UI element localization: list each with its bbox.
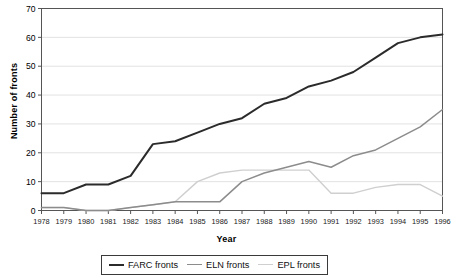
x-tick-label: 1979 <box>56 217 72 226</box>
x-tick-label: 1984 <box>167 217 183 226</box>
series-line <box>42 170 443 210</box>
series-line <box>42 110 443 211</box>
x-tick-label: 1993 <box>367 217 383 226</box>
legend-swatch-eln <box>187 264 202 265</box>
x-tick-label: 1987 <box>234 217 250 226</box>
y-tick-label: 50 <box>26 61 36 71</box>
y-axis-ticks: 010203040506070 <box>26 4 42 216</box>
y-tick-label: 40 <box>26 90 36 100</box>
legend-swatch-farc <box>109 264 124 266</box>
x-tick-label: 1981 <box>100 217 116 226</box>
x-tick-label: 1990 <box>301 217 317 226</box>
legend-label-farc: FARC fronts <box>128 260 178 270</box>
x-tick-label: 1991 <box>323 217 339 226</box>
legend-item-epl: EPL fronts <box>258 260 320 270</box>
x-tick-label: 1983 <box>145 217 161 226</box>
legend-item-eln: ELN fronts <box>187 260 249 270</box>
series-line <box>42 34 443 193</box>
x-axis-ticks: 1978197919801981198219831984198519861987… <box>33 211 450 226</box>
legend-item-farc: FARC fronts <box>109 260 178 270</box>
x-tick-label: 1986 <box>211 217 227 226</box>
x-tick-label: 1985 <box>189 217 205 226</box>
legend-swatch-epl <box>258 264 273 265</box>
legend-label-epl: EPL fronts <box>277 260 320 270</box>
x-tick-label: 1995 <box>412 217 428 226</box>
x-tick-label: 1980 <box>78 217 94 226</box>
x-tick-label: 1996 <box>434 217 450 226</box>
x-tick-label: 1989 <box>278 217 294 226</box>
gridlines <box>42 37 443 181</box>
x-tick-label: 1978 <box>33 217 49 226</box>
y-tick-label: 30 <box>26 119 36 129</box>
x-tick-label: 1988 <box>256 217 272 226</box>
data-series-group <box>42 34 443 210</box>
y-tick-label: 70 <box>26 4 36 14</box>
y-tick-label: 10 <box>26 177 36 187</box>
y-tick-label: 60 <box>26 33 36 43</box>
chart-legend: FARC fronts ELN fronts EPL fronts <box>101 255 328 275</box>
x-axis-title: Year <box>0 234 453 244</box>
x-tick-label: 1992 <box>345 217 361 226</box>
plot-frame <box>42 9 443 211</box>
chart-container: Number of fronts 010203040506070 1978197… <box>0 0 453 276</box>
legend-label-eln: ELN fronts <box>206 260 249 270</box>
y-tick-label: 0 <box>31 206 36 216</box>
y-tick-label: 20 <box>26 148 36 158</box>
x-tick-label: 1982 <box>122 217 138 226</box>
x-tick-label: 1994 <box>390 217 406 226</box>
